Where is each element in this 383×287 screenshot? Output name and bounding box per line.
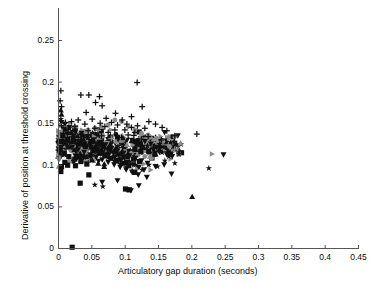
- data-point-plus: [99, 103, 105, 109]
- data-point-square: [131, 156, 136, 161]
- data-point-square: [89, 139, 94, 144]
- x-axis-label: Articulatory gap duration (seconds): [118, 266, 258, 276]
- data-point-square: [70, 245, 75, 250]
- x-tick-label: 0.2: [182, 253, 202, 262]
- data-point-square: [77, 141, 82, 146]
- data-point-up-triangle: [178, 140, 184, 145]
- x-tick-label: 0.4: [315, 253, 335, 262]
- data-point-square: [132, 146, 137, 151]
- data-point-plus: [103, 115, 109, 121]
- data-point-square: [119, 151, 124, 156]
- data-point-plus: [125, 132, 131, 138]
- y-tick-label: 0.05: [26, 202, 54, 211]
- data-point-square: [138, 149, 143, 154]
- x-tick-label: 0.1: [115, 253, 135, 262]
- data-point-square: [107, 146, 112, 151]
- x-tick-label: 0.15: [149, 253, 169, 262]
- data-point-square: [65, 136, 70, 141]
- data-point-square: [132, 170, 137, 175]
- data-point-square: [152, 151, 157, 156]
- data-point-down-triangle: [99, 180, 105, 185]
- data-point-square: [83, 144, 88, 149]
- data-point-square: [62, 151, 67, 156]
- x-tick-label: 0.25: [215, 253, 235, 262]
- data-point-square: [66, 154, 71, 159]
- data-point-plus: [194, 131, 200, 137]
- data-point-square: [126, 163, 131, 168]
- data-point-square: [84, 161, 89, 166]
- data-point-down-triangle: [144, 175, 150, 180]
- axes-group: [59, 8, 360, 249]
- data-point-square: [78, 159, 83, 164]
- data-point-plus: [159, 124, 165, 130]
- data-point-square: [60, 133, 65, 138]
- data-point-plus: [93, 99, 99, 105]
- data-point-star: [92, 181, 98, 187]
- data-point-circle: [112, 117, 117, 122]
- x-tick-label: 0.35: [282, 253, 302, 262]
- data-point-square: [95, 141, 100, 146]
- data-point-plus: [139, 104, 145, 110]
- data-point-square: [125, 154, 130, 159]
- y-tick-label: 0.1: [26, 161, 54, 170]
- data-point-circle: [139, 131, 144, 136]
- data-point-right-triangle: [148, 167, 153, 173]
- data-point-square: [127, 187, 132, 192]
- data-point-square: [90, 148, 95, 153]
- data-point-square: [102, 153, 107, 158]
- x-tick-label: 0.05: [82, 253, 102, 262]
- data-point-plus: [153, 121, 159, 127]
- data-point-plus: [134, 80, 140, 86]
- data-point-square: [86, 172, 91, 177]
- data-point-plus: [97, 94, 103, 100]
- data-point-square: [137, 159, 142, 164]
- data-point-square: [62, 160, 67, 165]
- y-tick-label: 0.25: [26, 36, 54, 45]
- data-markers-group: [55, 80, 226, 250]
- data-point-plus: [113, 110, 119, 116]
- data-point-square: [71, 139, 76, 144]
- data-point-plus: [83, 109, 89, 115]
- data-point-square: [96, 151, 101, 156]
- figure-scatter-plot: 00.050.10.150.20.250.30.350.40.4500.050.…: [0, 0, 383, 287]
- data-point-star: [100, 183, 106, 189]
- data-point-down-triangle: [161, 162, 167, 167]
- x-tick-label: 0.45: [349, 253, 369, 262]
- plot-canvas: [0, 0, 383, 287]
- data-point-plus: [86, 92, 92, 98]
- data-point-plus: [78, 92, 84, 98]
- data-point-circle: [57, 156, 62, 161]
- data-point-right-triangle: [210, 151, 215, 157]
- data-point-plus: [129, 114, 135, 120]
- data-point-star: [172, 160, 178, 166]
- data-point-down-triangle: [169, 171, 175, 176]
- data-point-square: [101, 144, 106, 149]
- data-point-square: [78, 181, 83, 186]
- data-point-plus: [131, 132, 137, 138]
- data-point-plus: [146, 119, 152, 125]
- data-point-down-triangle: [115, 178, 121, 183]
- y-tick-label: 0: [26, 244, 54, 253]
- data-point-plus: [142, 125, 148, 131]
- data-point-square: [73, 163, 78, 168]
- y-tick-label: 0.2: [26, 78, 54, 87]
- y-axis-label: Derivative of position at threshold cros…: [20, 71, 30, 240]
- x-tick-label: 0.3: [249, 253, 269, 262]
- data-point-down-triangle: [221, 152, 227, 157]
- data-point-star: [206, 165, 212, 171]
- data-point-square: [146, 149, 151, 154]
- x-tick-label: 0: [49, 253, 69, 262]
- data-point-plus: [75, 117, 81, 123]
- data-point-up-triangle: [189, 194, 195, 199]
- data-point-square: [72, 156, 77, 161]
- data-point-square: [114, 158, 119, 163]
- data-point-square: [108, 156, 113, 161]
- data-point-circle: [167, 144, 172, 149]
- data-point-plus: [89, 116, 95, 122]
- data-point-down-triangle: [136, 183, 142, 188]
- y-tick-label: 0.15: [26, 119, 54, 128]
- data-point-square: [58, 169, 63, 174]
- data-point-plus: [82, 121, 88, 127]
- data-point-square: [113, 149, 118, 154]
- data-point-circle: [113, 139, 118, 144]
